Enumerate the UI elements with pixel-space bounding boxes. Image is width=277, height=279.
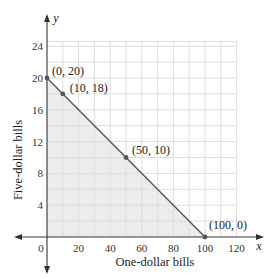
data-point-label: (100, 0)	[209, 218, 247, 232]
data-point-label: (50, 10)	[132, 143, 170, 157]
data-point	[203, 235, 208, 240]
y-axis-variable: y	[52, 11, 59, 25]
y-tick-label: 16	[32, 104, 44, 116]
x-axis-arrow-left-icon	[14, 234, 22, 240]
x-tick-label: 20	[73, 242, 85, 254]
x-tick-label: 40	[105, 242, 117, 254]
x-tick-label: 120	[228, 242, 245, 254]
y-axis-arrow-down-icon	[44, 266, 50, 274]
x-tick-label: 60	[136, 242, 148, 254]
data-point-label: (0, 20)	[52, 64, 84, 78]
y-tick-label: 24	[32, 40, 44, 52]
y-tick-label: 8	[38, 167, 44, 179]
data-point	[60, 92, 65, 97]
y-tick-label: 12	[32, 136, 43, 148]
y-tick-label: 4	[38, 199, 44, 211]
x-tick-label: 80	[168, 242, 180, 254]
y-tick-label: 20	[32, 72, 44, 84]
x-axis-variable: x	[255, 239, 262, 253]
data-point	[45, 76, 50, 81]
x-tick-label: 100	[197, 242, 214, 254]
x-axis-label: One-dollar bills	[116, 255, 195, 269]
data-point	[124, 155, 129, 160]
y-axis-label: Five-dollar bills	[11, 120, 25, 200]
chart: 0204060801001204812162024 (0, 20)(10, 18…	[0, 0, 277, 279]
y-axis-arrow-up-icon	[44, 14, 50, 22]
x-tick-label: 0	[38, 242, 44, 254]
data-point-label: (10, 18)	[70, 81, 108, 95]
